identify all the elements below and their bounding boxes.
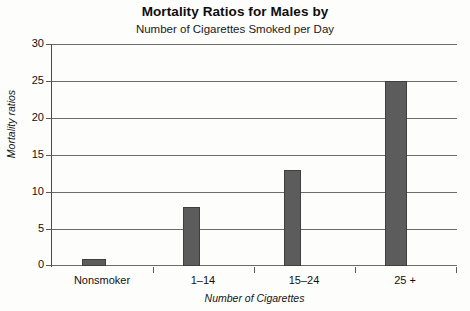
y-tick-mark-10 — [46, 192, 52, 193]
x-tick-mark-4 — [456, 267, 457, 273]
y-tick-mark-30 — [46, 44, 52, 45]
x-tick-mark-3 — [355, 267, 356, 273]
x-tick-label-15-24: 15–24 — [249, 274, 359, 286]
y-tick-label-5: 5 — [4, 223, 44, 234]
y-tick-label-0: 0 — [4, 259, 44, 270]
bar-nonsmoker — [82, 259, 106, 266]
y-tick-label-25: 25 — [4, 75, 44, 86]
y-tick-label-15: 15 — [4, 149, 44, 160]
y-tick-label-30: 30 — [4, 38, 44, 49]
chart-subtitle: Number of Cigarettes Smoked per Day — [0, 23, 470, 35]
y-tick-mark-20 — [46, 118, 52, 119]
bar-25-plus — [385, 81, 407, 266]
y-tick-mark-15 — [46, 155, 52, 156]
plot-area — [52, 44, 457, 266]
x-tick-mark-2 — [254, 267, 255, 273]
y-tick-label-10: 10 — [4, 186, 44, 197]
y-tick-label-20: 20 — [4, 112, 44, 123]
x-tick-label-1-14: 1–14 — [148, 274, 258, 286]
bar-1-14 — [183, 207, 200, 266]
x-axis-title: Number of Cigarettes — [52, 292, 457, 304]
bar-15-24 — [284, 170, 301, 266]
x-tick-label-25-plus: 25 + — [350, 274, 460, 286]
y-tick-mark-25 — [46, 81, 52, 82]
gridline-30 — [52, 44, 457, 45]
x-tick-mark-1 — [153, 267, 154, 273]
y-tick-mark-5 — [46, 229, 52, 230]
y-tick-mark-0 — [46, 265, 52, 266]
x-tick-label-nonsmoker: Nonsmoker — [47, 274, 157, 286]
chart-title: Mortality Ratios for Males by — [0, 4, 470, 19]
bar-chart-figure: Mortality Ratios for Males by Number of … — [0, 0, 470, 311]
